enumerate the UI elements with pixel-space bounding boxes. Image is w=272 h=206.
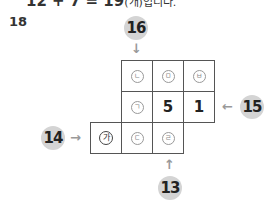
grid-cell: ㄹ	[152, 122, 184, 154]
grid-cell: ㅁ	[152, 60, 184, 92]
arrow-down-icon: ↓	[131, 42, 142, 55]
cell-value: 1	[194, 98, 204, 116]
circled-label: ㄷ	[131, 132, 144, 145]
previous-answer-line: 12 + 7 = 19(개)입니다.	[26, 0, 176, 10]
circled-label: ㅁ	[162, 70, 175, 83]
grid-cell: ㅂ	[183, 60, 215, 92]
question-number: 18	[9, 14, 27, 29]
circled-label: ㄱ	[131, 101, 144, 114]
cell-value: 5	[163, 98, 173, 116]
badge-bottom: 13	[158, 176, 182, 200]
badge-right: 15	[240, 95, 264, 119]
equation-suffix: (개)입니다.	[124, 0, 176, 9]
grid-cell: ㄷ	[121, 122, 153, 154]
circled-label-ga: 가	[99, 131, 113, 145]
grid-cell: ㄴ	[121, 60, 153, 92]
grid-cell: ㄱ	[121, 91, 153, 123]
grid-cell: 1	[183, 91, 215, 123]
circled-label: ㄴ	[131, 70, 144, 83]
arrow-left-icon: ←	[222, 100, 233, 113]
arrow-right-icon: →	[70, 131, 81, 144]
equation-text: 12 + 7 = 19	[26, 0, 124, 10]
badge-top: 16	[124, 16, 148, 40]
grid-cell: 가	[90, 122, 122, 154]
circled-label: ㄹ	[162, 132, 175, 145]
arrow-up-icon: ↑	[164, 158, 175, 171]
badge-left: 14	[41, 126, 65, 150]
circled-label: ㅂ	[193, 70, 206, 83]
grid-cell: 5	[152, 91, 184, 123]
